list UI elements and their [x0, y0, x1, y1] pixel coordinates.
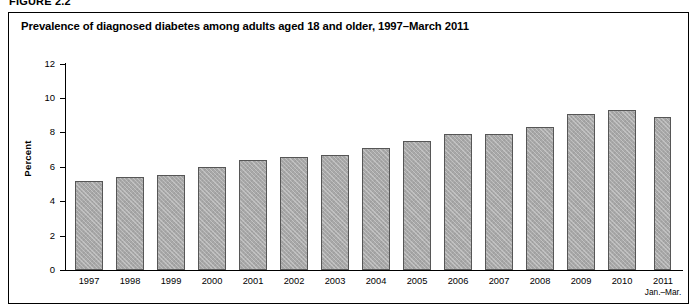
bar — [321, 155, 349, 270]
x-tick-label: 2000 — [192, 276, 232, 287]
bar — [654, 117, 671, 270]
bar — [485, 134, 513, 270]
x-tick-label: 2006 — [438, 276, 478, 287]
x-tick-label: 2008 — [520, 276, 560, 287]
bar — [526, 127, 554, 270]
x-axis-line — [60, 270, 683, 271]
bar — [116, 177, 144, 270]
bar — [280, 157, 308, 270]
x-tick-label: 2011Jan.–Mar. — [643, 276, 683, 297]
bar — [362, 148, 390, 270]
x-tick-label: 2009 — [561, 276, 601, 287]
x-tick-label: 2004 — [356, 276, 396, 287]
x-tick-label: 2002 — [274, 276, 314, 287]
y-tick-mark — [60, 132, 65, 133]
figure-label: FIGURE 2.2 — [9, 0, 71, 7]
figure-box: Prevalence of diagnosed diabetes among a… — [8, 12, 689, 304]
y-tick-mark — [60, 270, 65, 271]
bar — [239, 160, 267, 270]
chart-plot-area: Percent 024681012 1997199819992000200120… — [9, 13, 688, 303]
y-axis-line — [65, 63, 66, 271]
x-tick-label: 1999 — [151, 276, 191, 287]
x-tick-label: 1998 — [110, 276, 150, 287]
y-tick-mark — [60, 201, 65, 202]
y-tick-label: 4 — [33, 196, 55, 206]
x-tick-label: 2005 — [397, 276, 437, 287]
x-tick-label: 2001 — [233, 276, 273, 287]
y-tick-label: 6 — [33, 162, 55, 172]
y-tick-mark — [60, 236, 65, 237]
x-tick-label: 1997 — [69, 276, 109, 287]
bar — [403, 141, 431, 270]
bar — [157, 175, 185, 270]
y-tick-mark — [60, 98, 65, 99]
bar — [75, 181, 103, 270]
bar — [567, 114, 595, 270]
y-tick-mark — [60, 167, 65, 168]
bar — [444, 134, 472, 270]
y-tick-mark — [60, 64, 65, 65]
x-tick-sublabel: Jan.–Mar. — [643, 287, 683, 297]
x-tick-label: 2007 — [479, 276, 519, 287]
x-tick-label: 2003 — [315, 276, 355, 287]
y-tick-label: 12 — [33, 59, 55, 69]
bar — [198, 167, 226, 270]
y-tick-label: 2 — [33, 231, 55, 241]
x-tick-label: 2010 — [602, 276, 642, 287]
y-tick-label: 0 — [33, 265, 55, 275]
y-axis-title: Percent — [22, 129, 33, 189]
y-tick-label: 10 — [33, 93, 55, 103]
y-tick-label: 8 — [33, 127, 55, 137]
bar — [608, 110, 636, 270]
